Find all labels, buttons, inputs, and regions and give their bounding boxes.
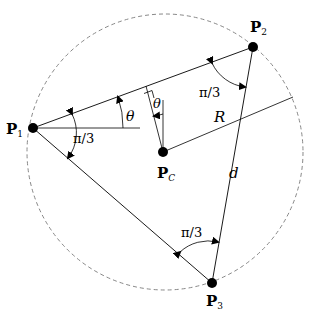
theta-arc-pc — [154, 114, 163, 116]
point-p1 — [28, 123, 38, 133]
pi3-arc-p3 — [180, 241, 218, 252]
label-radius: R — [213, 108, 225, 126]
label-theta-pc: θ — [153, 96, 161, 111]
label-pi3-p1: π/3 — [73, 131, 94, 146]
label-p1: P1 — [6, 120, 23, 139]
label-pi3-p3: π/3 — [181, 225, 202, 240]
label-pi3-p2: π/3 — [199, 85, 220, 100]
label-pc: PC — [157, 164, 175, 183]
diagram-canvas: P1 P2 P3 PC θ θ π/3 π/3 π/3 R d — [0, 0, 310, 317]
label-theta-p1: θ — [126, 108, 135, 124]
diagram: P1 P2 P3 PC θ θ π/3 π/3 π/3 R d — [0, 0, 310, 317]
label-side-d: d — [229, 164, 239, 182]
label-p3: P3 — [206, 292, 223, 311]
theta-arc-p1 — [118, 97, 123, 128]
point-p2 — [248, 42, 258, 52]
pi3-arc-p2 — [212, 63, 245, 87]
label-p2: P2 — [250, 18, 267, 37]
point-pc — [158, 147, 168, 157]
triangle — [33, 47, 253, 283]
radius-line — [163, 97, 293, 152]
point-p3 — [207, 278, 217, 288]
